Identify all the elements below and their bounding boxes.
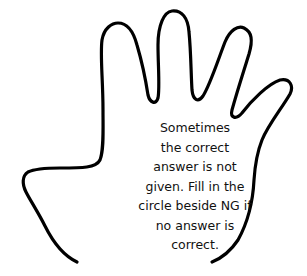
- instruction-line-5: circle beside NG if: [120, 196, 270, 216]
- instruction-line-7: correct.: [120, 235, 270, 255]
- instruction-line-4: given. Fill in the: [120, 177, 270, 197]
- instruction-line-2: the correct: [120, 138, 270, 158]
- instruction-line-3: answer is not: [120, 157, 270, 177]
- instruction-text: Sometimes the correct answer is not give…: [120, 118, 270, 255]
- instruction-line-6: no answer is: [120, 216, 270, 236]
- instruction-line-1: Sometimes: [120, 118, 270, 138]
- hand-illustration: Sometimes the correct answer is not give…: [0, 0, 307, 276]
